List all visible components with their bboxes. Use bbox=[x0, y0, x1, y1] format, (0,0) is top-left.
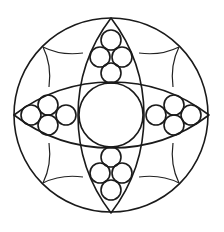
small-circle bbox=[38, 115, 58, 135]
center-circle bbox=[79, 83, 143, 147]
small-circle bbox=[56, 105, 76, 125]
lens-horizontal bbox=[14, 82, 209, 148]
kite-edge bbox=[43, 47, 83, 54]
small-circle-clusters bbox=[21, 30, 201, 200]
cluster-bottom bbox=[90, 147, 132, 200]
kite-edge bbox=[139, 176, 179, 183]
small-circle bbox=[146, 105, 166, 125]
center-circle-ring bbox=[79, 83, 143, 147]
kite-edge bbox=[43, 143, 50, 183]
diagonal-kites bbox=[43, 47, 179, 183]
cluster-left bbox=[21, 95, 76, 135]
mandala-diagram bbox=[0, 0, 224, 232]
small-circle bbox=[101, 63, 121, 83]
kite-edge bbox=[43, 176, 83, 183]
kite-edge bbox=[43, 47, 50, 87]
small-circle bbox=[101, 180, 121, 200]
lens-vertical bbox=[78, 18, 144, 213]
small-circle bbox=[38, 95, 58, 115]
cluster-right bbox=[146, 95, 201, 135]
kite-edge bbox=[139, 47, 179, 54]
cluster-top bbox=[90, 30, 132, 83]
kite-edge bbox=[172, 47, 179, 87]
kite-edge bbox=[172, 143, 179, 183]
small-circle bbox=[181, 105, 201, 125]
